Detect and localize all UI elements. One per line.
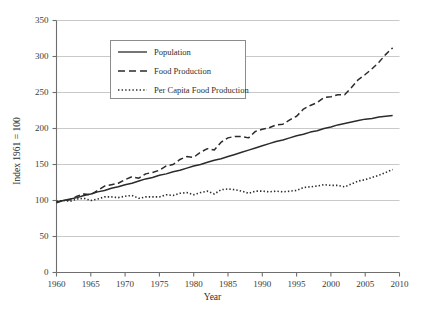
y-tick-label-100: 100 bbox=[0, 195, 49, 205]
y-tick-label-250: 250 bbox=[0, 87, 49, 97]
legend-swatch-dotted-icon bbox=[117, 84, 148, 96]
y-axis-title: Index 1961 = 100 bbox=[12, 91, 22, 211]
series-line-per-capita-food-production bbox=[57, 170, 393, 202]
legend-label-food-production: Food Production bbox=[154, 66, 211, 76]
legend-item-population: Population bbox=[117, 43, 191, 61]
legend-label-per-capita-food-production: Per Capita Food Production bbox=[154, 85, 249, 95]
y-tick-label-200: 200 bbox=[0, 123, 49, 133]
chart-container: 0501001502002503003501960196519701975198… bbox=[0, 0, 425, 313]
y-tick-label-0: 0 bbox=[0, 267, 49, 277]
legend-item-per-capita-food-production: Per Capita Food Production bbox=[117, 81, 249, 99]
x-axis-title: Year bbox=[0, 292, 425, 302]
y-tick-label-150: 150 bbox=[0, 159, 49, 169]
legend-item-food-production: Food Production bbox=[117, 62, 211, 80]
x-tick-label-2010: 2010 bbox=[375, 279, 425, 289]
legend-swatch-solid-icon bbox=[117, 46, 148, 58]
y-tick-label-50: 50 bbox=[0, 231, 49, 241]
legend-swatch-dashed-icon bbox=[117, 65, 148, 77]
legend-label-population: Population bbox=[154, 47, 191, 57]
chart-legend: Population Food Production Per Capita Fo… bbox=[110, 40, 246, 99]
y-tick-label-300: 300 bbox=[0, 51, 49, 61]
y-tick-label-350: 350 bbox=[0, 15, 49, 25]
